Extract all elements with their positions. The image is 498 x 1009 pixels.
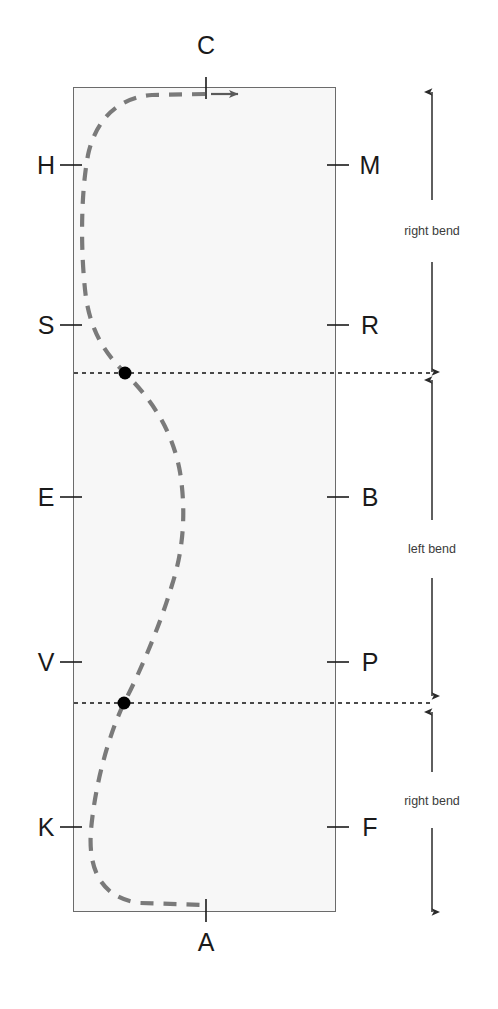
bend-label-3: right bend [404, 794, 460, 808]
diagram-canvas: C A H S E V K M R B P F right bend left … [0, 0, 498, 1009]
label-A: A [198, 928, 215, 956]
label-H: H [37, 151, 55, 179]
label-P: P [362, 648, 379, 676]
inflection-point-upper [119, 367, 132, 380]
label-C: C [197, 31, 215, 59]
label-F: F [362, 813, 377, 841]
label-S: S [38, 311, 55, 339]
bend-label-1: right bend [404, 224, 460, 238]
label-R: R [361, 311, 379, 339]
inflection-point-lower [118, 697, 131, 710]
label-V: V [38, 648, 55, 676]
label-E: E [38, 483, 55, 511]
bend-label-2: left bend [408, 542, 456, 556]
field-rectangle [74, 88, 336, 912]
label-K: K [38, 813, 55, 841]
label-B: B [362, 483, 379, 511]
label-M: M [360, 151, 381, 179]
trajectory-diagram: C A H S E V K M R B P F right bend left … [0, 0, 498, 1009]
